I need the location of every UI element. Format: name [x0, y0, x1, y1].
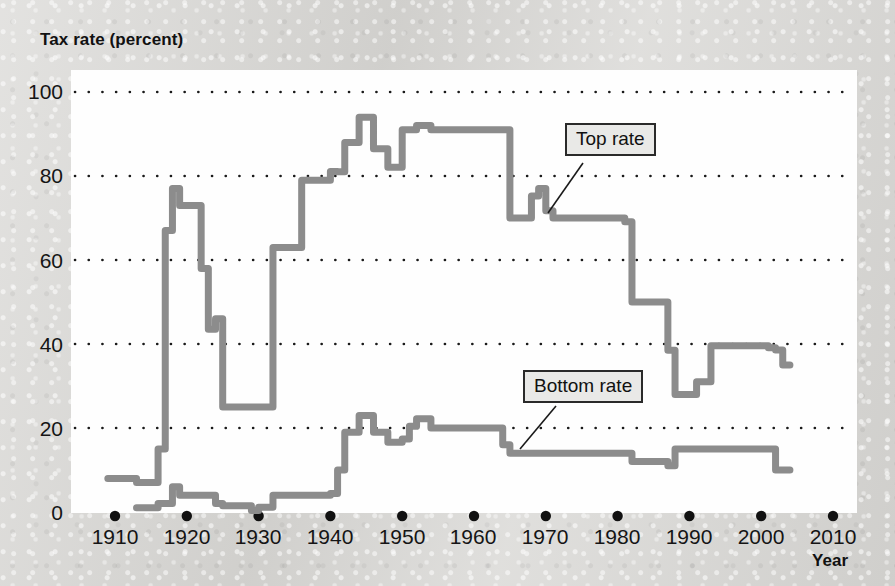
x-tick-dot-1920	[182, 511, 192, 521]
bottom-rate-leader-line	[520, 406, 556, 449]
bottom-rate-line	[137, 415, 790, 510]
x-tick-dot-1940	[325, 511, 335, 521]
figure-root: Tax rate (percent) Year 100 80 60 40 20 …	[0, 0, 895, 586]
data-series-lines	[108, 117, 790, 510]
x-tick-dot-2000	[756, 511, 766, 521]
x-tick-dot-1990	[684, 511, 694, 521]
top-rate-callout: Top rate	[565, 123, 656, 156]
x-tick-dot-1910	[110, 511, 120, 521]
x-tick-dot-2010	[828, 511, 838, 521]
top-rate-leader-line	[548, 163, 583, 213]
x-tick-dot-1950	[397, 511, 407, 521]
x-tick-dot-1980	[612, 511, 622, 521]
chart-canvas	[0, 0, 895, 586]
x-tick-dot-1960	[469, 511, 479, 521]
x-axis-tick-markers	[110, 511, 838, 521]
bottom-rate-callout: Bottom rate	[523, 370, 643, 403]
gridlines	[75, 92, 855, 428]
x-tick-dot-1970	[541, 511, 551, 521]
